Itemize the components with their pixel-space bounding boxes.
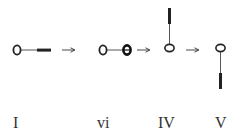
arrow-icon xyxy=(62,48,75,52)
progression-diagram xyxy=(0,0,238,137)
stage-label-iv: IV xyxy=(158,114,175,132)
thick-bar-icon xyxy=(37,49,51,52)
ellipse-icon xyxy=(165,44,174,51)
arrow-icon xyxy=(186,48,199,52)
ellipse-icon xyxy=(216,44,225,51)
stage-vi-figure xyxy=(99,45,130,54)
stage-iv-figure xyxy=(165,8,174,52)
circle-icon xyxy=(13,45,20,54)
thick-bar-icon xyxy=(219,73,222,89)
stage-i-figure xyxy=(13,45,51,54)
stage-label-i: I xyxy=(13,114,18,132)
stage-v-figure xyxy=(216,44,225,89)
circle-icon xyxy=(99,45,106,54)
stage-label-v: V xyxy=(215,114,227,132)
stage-label-vi: vi xyxy=(97,114,109,132)
arrow-icon xyxy=(137,48,150,52)
thick-bar-icon xyxy=(168,8,171,24)
